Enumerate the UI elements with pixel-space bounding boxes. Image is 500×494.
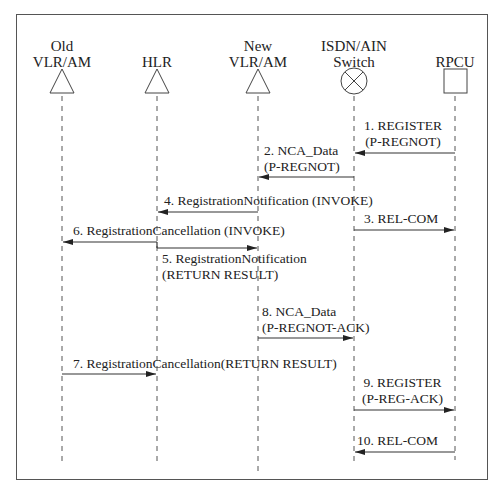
switch-circle-x-icon — [341, 68, 367, 94]
msg-9-label: 9. REGISTER (P-REG-ACK) — [362, 375, 443, 407]
sequence-diagram — [0, 0, 500, 494]
msg-1-label: 1. REGISTER (P-REGNOT) — [364, 118, 442, 150]
msg-6-label: 6. RegistrationCancellation (INVOKE) — [73, 223, 285, 239]
old-vlr-triangle-icon — [50, 69, 74, 93]
actor-switch-label: ISDN/AIN Switch — [299, 38, 409, 70]
new-vlr-triangle-icon — [246, 69, 270, 93]
msg-7-label: 7. RegistrationCancellation(RETURN RESUL… — [73, 356, 337, 372]
msg-4-label: 4. RegistrationNotification (INVOKE) — [164, 193, 373, 209]
rpcu-square-icon — [444, 69, 467, 93]
msg-5-label: 5. RegistrationNotification (RETURN RESU… — [162, 251, 307, 283]
actor-old-vlr-label: Old VLR/AM — [7, 38, 117, 70]
lifelines — [62, 96, 455, 471]
msg-10-label: 10. REL-COM — [357, 433, 438, 449]
msg-3-label: 3. REL-COM — [364, 211, 438, 227]
hlr-triangle-icon — [145, 69, 169, 93]
actor-rpcu-label: RPCU — [400, 54, 500, 70]
actor-hlr-label: HLR — [102, 54, 212, 70]
msg-2-label: 2. NCA_Data (P-REGNOT) — [264, 143, 340, 175]
actor-new-vlr-label: New VLR/AM — [203, 38, 313, 70]
msg-8-label: 8. NCA_Data (P-REGNOT-ACK) — [262, 304, 370, 336]
